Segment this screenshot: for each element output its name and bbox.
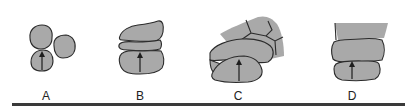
panel-a-drawing (30, 25, 75, 71)
grain-right (54, 35, 75, 58)
panel-b-drawing (119, 21, 164, 74)
panel-c-drawing (210, 16, 284, 82)
bottom-rule-divider (12, 103, 405, 106)
panel-label-b: B (130, 89, 150, 103)
panel-d-drawing (332, 23, 388, 81)
grain-upper-left (30, 25, 52, 49)
deformation-stages-figure: A B C D (0, 0, 416, 112)
panel-label-a: A (36, 89, 56, 103)
layer-bottom (334, 61, 380, 81)
panel-label-d: D (342, 89, 362, 103)
grain-bottom (119, 51, 163, 74)
panel-label-c: C (228, 89, 248, 103)
layer-top (335, 23, 388, 40)
grain-middle (119, 40, 162, 51)
layer-middle (332, 39, 385, 62)
grain-top (119, 21, 163, 42)
